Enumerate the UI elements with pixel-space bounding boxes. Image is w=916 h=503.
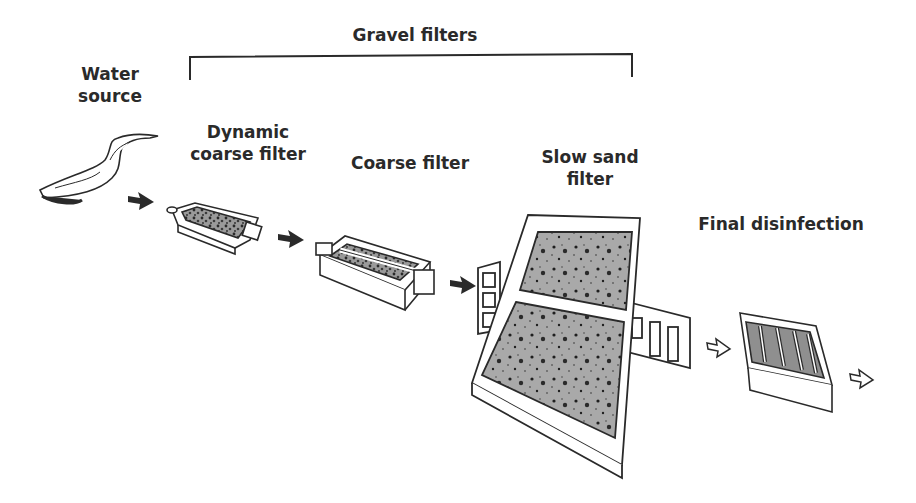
- filtration-diagram: Gravel filters Water source Dynamic coar…: [0, 0, 916, 503]
- final-disinfection-label: Final disinfection: [676, 213, 886, 235]
- dynamic-coarse-filter-label: Dynamic coarse filter: [178, 121, 318, 165]
- slow-sand-filter-label: Slow sand filter: [525, 146, 655, 190]
- slow-sand-filter-icon: [472, 215, 690, 478]
- final-disinfection-icon: [740, 313, 832, 412]
- coarse-filter-icon: [316, 236, 434, 310]
- dynamic-coarse-filter-icon: [167, 203, 262, 254]
- gravel-filters-bracket: [190, 54, 632, 80]
- coarse-filter-label: Coarse filter: [335, 152, 485, 174]
- water-source-label: Water source: [60, 63, 160, 107]
- water-source-icon: [40, 134, 158, 203]
- gravel-filters-label: Gravel filters: [300, 24, 530, 46]
